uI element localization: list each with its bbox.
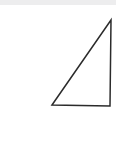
right-triangle-outline — [52, 20, 111, 106]
triangle-figure — [0, 0, 116, 146]
triangle-svg — [0, 0, 116, 146]
figure-canvas — [0, 0, 116, 146]
